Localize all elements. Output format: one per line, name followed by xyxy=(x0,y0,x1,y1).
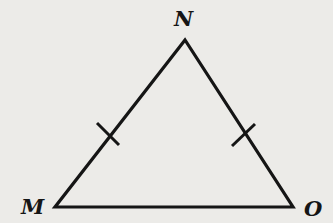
vertex-label-O: O xyxy=(304,198,322,219)
triangle-MNO xyxy=(55,40,293,207)
triangle-diagram xyxy=(0,0,333,223)
vertex-label-N: N xyxy=(174,8,193,29)
vertex-label-M: M xyxy=(21,196,44,217)
tick-mark-MN xyxy=(97,123,119,145)
